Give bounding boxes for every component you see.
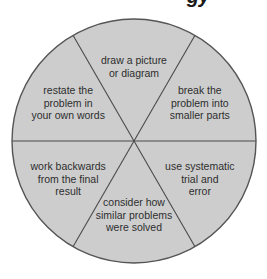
- slice-label-line: restate the: [43, 84, 93, 96]
- slice-label-line: problem in: [44, 97, 93, 109]
- slice-label-line: draw a picture: [101, 54, 167, 66]
- slice-label-line: problem into: [171, 97, 229, 109]
- slice-label-line: consider how: [103, 196, 165, 208]
- slice-label-bottom: consider howsimilar problemswere solved: [96, 196, 172, 233]
- slice-label-line: work backwards: [30, 160, 106, 172]
- slice-label-line: break the: [178, 84, 222, 96]
- slice-label-line: from the final: [38, 173, 99, 185]
- slice-label-upper-right: break theproblem intosmaller parts: [170, 84, 230, 121]
- slice-label-line: result: [55, 185, 81, 197]
- strategy-wheel: draw a pictureor diagrambreak theproblem…: [0, 0, 267, 279]
- slice-label-line: similar problems: [96, 209, 172, 221]
- slice-label-line: were solved: [105, 221, 162, 233]
- slice-label-line: trial and: [181, 173, 219, 185]
- slice-label-line: your own words: [31, 109, 105, 121]
- slice-label-line: or diagram: [109, 67, 159, 79]
- slice-label-line: use systematic: [165, 160, 234, 172]
- slice-label-line: smaller parts: [170, 109, 230, 121]
- slice-label-top: draw a pictureor diagram: [101, 54, 167, 79]
- slice-label-line: error: [189, 185, 212, 197]
